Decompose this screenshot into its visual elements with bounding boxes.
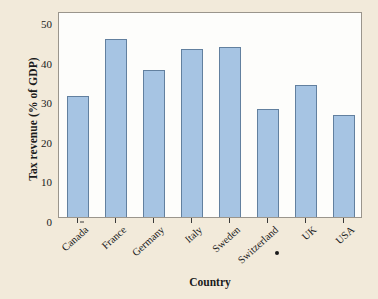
plot-inner-bars xyxy=(59,13,361,217)
y-axis-tick-label: 20 xyxy=(26,137,52,149)
bar xyxy=(295,85,317,217)
y-axis-tick-label: 10 xyxy=(26,176,52,188)
x-axis-tick-mark xyxy=(115,218,116,223)
x-axis-tick-mark xyxy=(153,218,154,223)
x-axis-tick-mark xyxy=(343,218,344,223)
x-axis-tick-mark xyxy=(77,218,78,223)
x-axis-title: Country xyxy=(58,276,362,288)
stray-ink-dot-artifact xyxy=(275,251,279,255)
x-axis-tick-mark xyxy=(229,218,230,223)
bar xyxy=(67,96,89,217)
x-axis-tick-label-group: CanadaFranceGermanyItalySwedenSwitzerlan… xyxy=(58,224,362,278)
x-axis-tick-mark xyxy=(267,218,268,223)
y-axis-tick-label: 40 xyxy=(26,58,52,70)
bar xyxy=(143,70,165,217)
bar xyxy=(181,49,203,217)
bar xyxy=(333,115,355,217)
bar xyxy=(105,39,127,217)
bar xyxy=(219,47,241,217)
bar-chart-figure: Tax revenue (% of GDP) 01020304050 Canad… xyxy=(0,0,378,299)
x-axis-tick-mark xyxy=(191,218,192,223)
bar xyxy=(257,109,279,217)
y-axis-tick-label-group: 01020304050 xyxy=(26,14,52,226)
plot-area xyxy=(58,12,362,218)
y-axis-tick-label: 30 xyxy=(26,97,52,109)
y-axis-tick-label: 50 xyxy=(26,18,52,30)
y-axis-tick-label: 0 xyxy=(26,216,52,228)
x-axis-tick-mark xyxy=(305,218,306,223)
